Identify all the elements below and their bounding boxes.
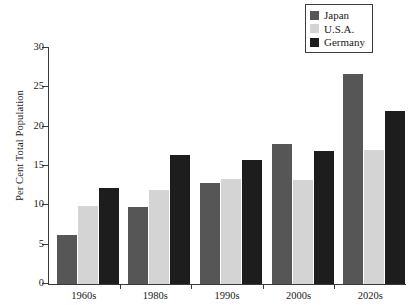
legend-swatch-icon (310, 11, 319, 20)
y-tick-label: 25 (34, 79, 45, 92)
bar (200, 183, 220, 284)
bar (314, 151, 334, 284)
x-axis-label: 2000s (259, 290, 339, 301)
legend-label: Japan (324, 9, 349, 21)
x-tick-mark (191, 285, 192, 289)
y-tick-label: 20 (34, 119, 45, 132)
bar-group (57, 48, 119, 284)
bar (170, 155, 190, 284)
y-tick-label: 15 (34, 158, 45, 171)
y-tick: 30 (48, 47, 49, 48)
chart-legend: JapanU.S.A.Germany (305, 4, 373, 53)
y-axis-line (48, 47, 49, 285)
bar (272, 144, 292, 284)
legend-label: Germany (324, 36, 365, 48)
y-tick: 0 (48, 283, 49, 284)
bar-group (200, 48, 262, 284)
x-axis-label: 1990s (187, 290, 267, 301)
legend-label: U.S.A. (324, 23, 354, 35)
legend-item: Japan (310, 9, 365, 22)
y-tick-label: 5 (39, 237, 44, 250)
y-tick: 20 (48, 126, 49, 127)
bar (99, 188, 119, 284)
bar (242, 160, 262, 284)
x-tick-mark (120, 285, 121, 289)
bar (293, 180, 313, 284)
bar (57, 235, 77, 284)
x-tick-mark (263, 285, 264, 289)
y-tick: 10 (48, 204, 49, 205)
x-axis-label: 2020s (330, 290, 410, 301)
x-axis-label: 1960s (44, 290, 124, 301)
plot-area: 051015202530 (48, 47, 406, 285)
y-tick-label: 10 (34, 197, 45, 210)
y-tick-label: 0 (39, 276, 44, 289)
x-axis-label: 1980s (115, 290, 195, 301)
bar (221, 179, 241, 284)
legend-item: Germany (310, 36, 365, 49)
bar-chart: Per Cent Total Population 051015202530 1… (0, 0, 414, 305)
legend-item: U.S.A. (310, 22, 365, 35)
bar (149, 190, 169, 284)
legend-swatch-icon (310, 38, 319, 47)
bar (128, 207, 148, 284)
bar (364, 150, 384, 284)
bar-group (128, 48, 190, 284)
bar (78, 206, 98, 284)
y-tick: 25 (48, 86, 49, 87)
x-axis-line (48, 284, 406, 285)
y-tick-label: 30 (34, 40, 45, 53)
x-tick-mark (334, 285, 335, 289)
y-axis-title: Per Cent Total Population (14, 56, 25, 236)
bar-group (343, 48, 405, 284)
bar (343, 74, 363, 284)
bar (385, 111, 405, 284)
y-tick: 5 (48, 244, 49, 245)
bar-group (272, 48, 334, 284)
y-tick: 15 (48, 165, 49, 166)
legend-swatch-icon (310, 24, 319, 33)
